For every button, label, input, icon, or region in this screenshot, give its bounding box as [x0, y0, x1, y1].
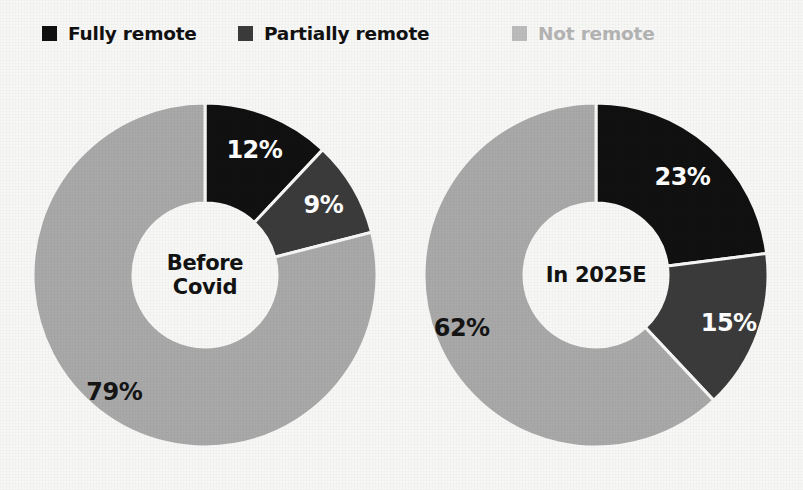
donut-svg-in-2025e: [424, 103, 768, 447]
donut-chart-in-2025e: [424, 103, 768, 447]
donut-svg-before-covid: [33, 103, 377, 447]
donut-slice-fully-remote[interactable]: [596, 103, 767, 266]
donut-chart-group: BeforeCovid12%9%79%In 2025E23%15%62%: [0, 0, 803, 490]
donut-chart-before-covid: [33, 103, 377, 447]
